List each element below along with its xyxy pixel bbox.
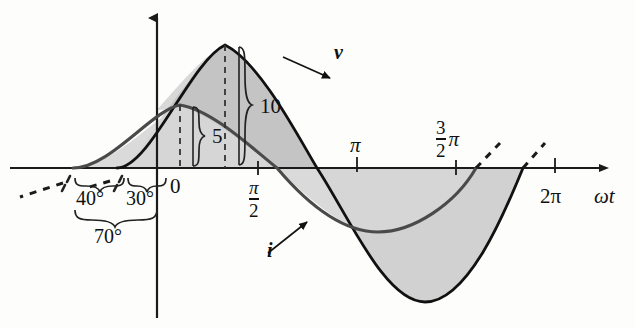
tick-label-pi-over-2: π 2: [249, 178, 259, 220]
pi-over-2-numerator: π: [249, 178, 259, 197]
tick-label-2pi: 2π: [540, 186, 561, 207]
voltage-amplitude-label: 10: [260, 96, 281, 117]
waveform-figure: 0 40° 30° 70° 5 10 π 2 π 3 2 π 2π ωt v i: [0, 0, 635, 328]
tick-label-3pi-over-2: 3 2 π: [436, 118, 459, 160]
tick-label-pi: π: [350, 135, 361, 156]
origin-label: 0: [170, 176, 181, 197]
bracket-30-label: 30°: [126, 188, 154, 208]
three-halves-pi-symbol: π: [449, 129, 460, 150]
three-halves-numerator: 3: [436, 118, 446, 137]
x-axis-label: ωt: [594, 186, 615, 207]
current-curve-label: i: [267, 240, 273, 260]
bracket-40-label: 40°: [76, 188, 104, 208]
voltage-curve-label: v: [334, 42, 343, 62]
voltage-pointer-arrow: [283, 57, 330, 78]
bracket-70-label: 70°: [94, 226, 122, 246]
waveform-plot: [0, 0, 635, 328]
current-pointer-arrow: [268, 222, 307, 253]
current-amplitude-label: 5: [212, 126, 223, 147]
three-halves-denominator: 2: [436, 141, 446, 160]
pi-over-2-denominator: 2: [249, 201, 259, 220]
